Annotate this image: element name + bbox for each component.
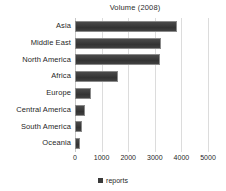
bar (75, 88, 91, 99)
plot-area (75, 18, 208, 152)
chart-title: Volume (2008) (60, 3, 210, 12)
category-label: Central America (16, 102, 71, 119)
category-label: Africa (51, 68, 71, 85)
category-label: Middle East (31, 35, 71, 52)
bar-row (75, 119, 208, 136)
bar-chart: Volume (2008) AsiaMiddle EastNorth Ameri… (0, 0, 226, 191)
bar (75, 105, 85, 116)
bar-row (75, 135, 208, 152)
bar (75, 71, 118, 82)
category-label: North America (22, 52, 71, 69)
value-axis-labels: 010002000300040005000 (75, 154, 208, 166)
gridline-5000 (208, 18, 209, 152)
bar-row (75, 85, 208, 102)
category-label: South America (21, 119, 71, 136)
category-label: Oceania (42, 135, 71, 152)
bar-row (75, 68, 208, 85)
bar-row (75, 52, 208, 69)
bar (75, 138, 80, 149)
bar-row (75, 102, 208, 119)
category-label: Europe (46, 85, 71, 102)
x-tick-label: 0 (73, 154, 77, 161)
bar-row (75, 35, 208, 52)
legend-label-reports: reports (106, 177, 128, 184)
x-tick-label: 5000 (200, 154, 216, 161)
category-label: Asia (56, 18, 71, 35)
x-tick-label: 3000 (147, 154, 163, 161)
bar (75, 21, 177, 32)
legend-swatch-reports (98, 178, 103, 183)
bars-layer (75, 18, 208, 152)
bar (75, 121, 82, 132)
category-axis-labels: AsiaMiddle EastNorth AmericaAfricaEurope… (0, 18, 71, 152)
x-tick-label: 2000 (120, 154, 136, 161)
x-tick-label: 4000 (174, 154, 190, 161)
bar-row (75, 18, 208, 35)
bar (75, 38, 161, 49)
bar (75, 54, 160, 65)
x-tick-label: 1000 (94, 154, 110, 161)
chart-legend: reports (0, 177, 226, 184)
